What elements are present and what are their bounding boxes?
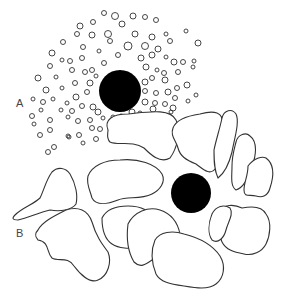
droplet bbox=[91, 20, 96, 25]
droplet bbox=[90, 104, 96, 110]
droplet bbox=[101, 116, 105, 120]
droplet bbox=[67, 135, 71, 139]
droplet bbox=[119, 21, 125, 27]
droplet bbox=[35, 75, 41, 81]
droplet bbox=[41, 100, 46, 105]
droplet bbox=[163, 102, 168, 107]
droplet bbox=[184, 29, 188, 33]
droplet bbox=[49, 50, 55, 56]
diagram-canvas bbox=[0, 0, 295, 298]
droplet bbox=[173, 96, 178, 101]
droplet bbox=[149, 52, 155, 58]
panel-a-black-sphere bbox=[99, 70, 141, 112]
droplet bbox=[186, 99, 190, 103]
droplet bbox=[168, 39, 173, 44]
droplet bbox=[124, 42, 132, 50]
cell-outline bbox=[36, 209, 110, 281]
droplet bbox=[184, 82, 190, 88]
droplet bbox=[38, 133, 43, 138]
droplet bbox=[90, 68, 95, 73]
droplet bbox=[112, 13, 119, 20]
droplet bbox=[130, 13, 136, 19]
droplet bbox=[48, 64, 53, 69]
droplet bbox=[75, 32, 80, 37]
droplet bbox=[46, 150, 51, 155]
droplet bbox=[191, 65, 195, 69]
droplet bbox=[150, 76, 155, 81]
droplet bbox=[30, 114, 35, 119]
droplet bbox=[164, 32, 168, 36]
droplet bbox=[81, 45, 86, 50]
droplet bbox=[175, 86, 180, 91]
droplet bbox=[150, 106, 156, 112]
droplet bbox=[143, 15, 148, 20]
droplet bbox=[154, 18, 159, 23]
droplet bbox=[31, 97, 35, 101]
droplet bbox=[68, 59, 73, 64]
droplet bbox=[181, 60, 186, 65]
droplet bbox=[51, 97, 55, 101]
droplet bbox=[165, 89, 171, 95]
droplet bbox=[60, 86, 64, 90]
droplet bbox=[66, 115, 70, 119]
droplet bbox=[149, 34, 155, 40]
droplet bbox=[80, 104, 85, 109]
droplet bbox=[171, 59, 177, 65]
cell-outline bbox=[87, 160, 163, 204]
panel-b-cells bbox=[13, 111, 273, 288]
droplet bbox=[65, 101, 69, 105]
droplet bbox=[87, 80, 93, 86]
diagram-figure: A B bbox=[0, 0, 295, 298]
droplet bbox=[105, 31, 112, 38]
panel-label-b: B bbox=[16, 227, 23, 239]
droplet bbox=[195, 40, 201, 46]
droplet bbox=[43, 87, 49, 93]
panel-b-black-sphere bbox=[171, 173, 211, 213]
droplet bbox=[164, 55, 168, 59]
droplet bbox=[98, 127, 103, 132]
droplet bbox=[153, 101, 158, 106]
droplet bbox=[88, 118, 93, 123]
droplet bbox=[59, 108, 63, 112]
droplet bbox=[94, 137, 99, 142]
droplet bbox=[95, 109, 101, 115]
cell-outline bbox=[107, 112, 179, 160]
droplet bbox=[85, 90, 90, 95]
droplet bbox=[94, 74, 98, 78]
droplet bbox=[61, 40, 66, 45]
droplet bbox=[48, 118, 53, 123]
droplet bbox=[70, 109, 75, 114]
droplet bbox=[142, 79, 148, 85]
droplet bbox=[32, 122, 36, 126]
droplet bbox=[102, 61, 107, 66]
droplet bbox=[162, 77, 168, 83]
droplet bbox=[60, 58, 64, 62]
droplet bbox=[77, 133, 82, 138]
droplet bbox=[116, 53, 121, 58]
droplet bbox=[80, 56, 85, 61]
droplet bbox=[132, 31, 138, 37]
droplet bbox=[143, 64, 149, 70]
droplet bbox=[73, 81, 78, 86]
droplet bbox=[89, 32, 95, 38]
droplet bbox=[108, 39, 113, 44]
droplet bbox=[194, 93, 198, 97]
droplet bbox=[52, 145, 57, 150]
droplet bbox=[70, 68, 75, 73]
droplet bbox=[143, 89, 148, 94]
panel-label-a: A bbox=[16, 97, 23, 109]
droplet bbox=[155, 68, 159, 72]
droplet bbox=[97, 49, 101, 53]
droplet bbox=[77, 23, 83, 29]
droplet bbox=[76, 119, 81, 124]
droplet bbox=[142, 99, 148, 105]
droplet bbox=[90, 126, 95, 131]
droplet bbox=[176, 70, 181, 75]
droplet bbox=[102, 11, 107, 16]
droplet bbox=[192, 59, 196, 63]
droplet bbox=[39, 108, 43, 112]
droplet bbox=[81, 141, 85, 145]
droplet bbox=[155, 46, 161, 52]
droplet bbox=[48, 128, 53, 133]
droplet bbox=[83, 70, 88, 75]
